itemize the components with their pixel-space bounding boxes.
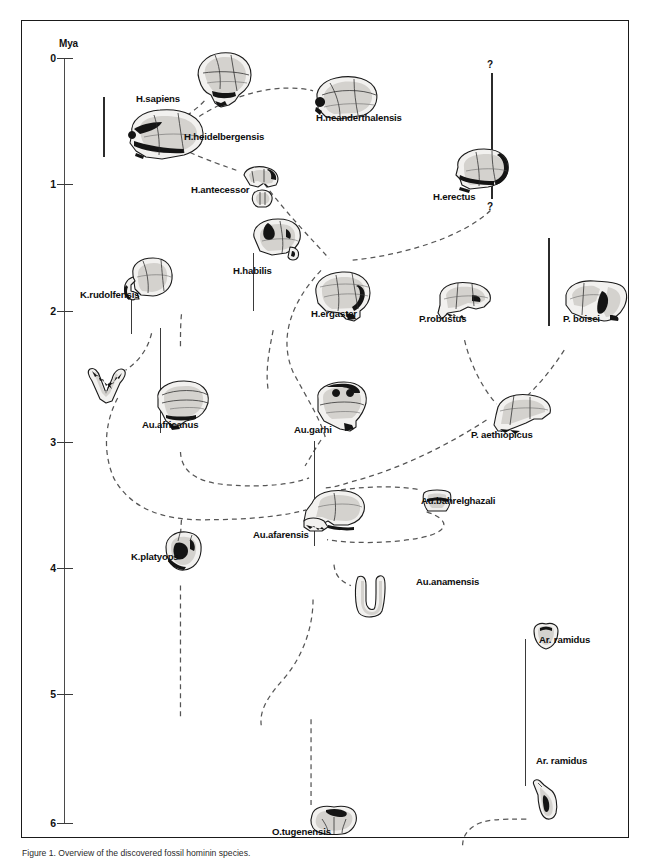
fossil-h-habilis — [248, 215, 306, 263]
axis-tick-label-2: 2 — [38, 306, 56, 317]
taxon-label-au-anamensis: Au.anamensis — [416, 577, 479, 587]
taxon-label-h-ergaster: H.ergaster — [311, 309, 357, 319]
uncertainty-marker-bottom: ? — [487, 201, 493, 212]
taxon-label-p-robustus: P.robustus — [419, 314, 466, 324]
axis-tick-5 — [57, 694, 73, 695]
axis-tick-label-5: 5 — [38, 689, 56, 700]
figure-caption: Figure 1. Overview of the discovered fos… — [22, 848, 622, 866]
taxon-label-p-aethiopicus: P. aethiopicus — [471, 430, 533, 440]
taxon-label-p-boisei: P. boisei — [563, 314, 600, 324]
uncertainty-marker-top: ? — [487, 59, 493, 70]
link-habilis-down — [267, 330, 273, 390]
fossil-h-sapiens — [185, 49, 257, 111]
fossil-k-rudolfensis — [119, 255, 175, 309]
axis-line — [64, 58, 65, 823]
link-africanus-up — [180, 314, 181, 346]
link-africanus-afarensis — [180, 452, 309, 486]
link-afarensis-anamensis — [334, 565, 351, 586]
taxon-label-h-sapiens: H.sapiens — [136, 94, 180, 104]
figure-page: Mya 0 1 2 3 4 5 6 — [0, 0, 651, 868]
axis-tick-label-4: 4 — [38, 563, 56, 574]
taxon-label-au-africanus: Au.africanus — [142, 420, 198, 430]
taxon-label-k-rudolfensis: K.rudolfensis — [80, 290, 139, 300]
axis-tick-label-1: 1 — [38, 179, 56, 190]
taxon-label-k-platyops: K.platyops — [131, 552, 179, 562]
range-bar-ramidus — [525, 639, 526, 786]
time-axis: Mya 0 1 2 3 4 5 6 — [64, 58, 66, 823]
axis-tick-3 — [57, 442, 73, 443]
taxon-label-h-antecessor: H.antecessor — [191, 185, 249, 195]
axis-tick-2 — [57, 311, 73, 312]
axis-unit-label: Mya — [59, 38, 78, 49]
taxon-label-h-heidelbergensis: H.heidelbergensis — [184, 132, 264, 142]
axis-tick-4 — [57, 568, 73, 569]
taxon-label-au-garhi: Au.garhi — [294, 425, 332, 435]
link-ramidus-bottom — [463, 819, 527, 847]
axis-tick-6 — [57, 823, 73, 824]
axis-tick-label-6: 6 — [38, 818, 56, 829]
axis-tick-label-3: 3 — [38, 437, 56, 448]
taxon-label-h-habilis: H.habilis — [233, 266, 272, 276]
range-bar-boisei — [548, 238, 550, 326]
taxon-label-ar-ramidus-upper: Ar. ramidus — [539, 635, 590, 645]
fossil-mandible-fragment — [84, 365, 130, 407]
taxon-label-ar-ramidus-lower: Ar. ramidus — [536, 756, 587, 766]
link-anamensis-down — [261, 600, 313, 726]
axis-tick-label-0: 0 — [38, 53, 56, 64]
taxon-label-au-afarensis: Au.afarensis — [253, 530, 309, 540]
fossil-ar-ramidus-lower — [530, 777, 560, 821]
taxon-label-au-bahrelghazali: Au.bahrelghazali — [421, 496, 495, 506]
taxon-label-o-tugenensis: O.tugenensis — [272, 827, 331, 837]
axis-tick-1 — [57, 184, 73, 185]
link-erectus-ergaster — [351, 211, 491, 261]
fossil-h-erectus — [450, 145, 512, 197]
taxon-label-h-neanderthalensis: H.neanderthalensis — [316, 113, 402, 123]
figure-frame: Mya 0 1 2 3 4 5 6 — [21, 20, 629, 838]
fossil-au-anamensis — [352, 573, 388, 621]
range-bar-heidelbergensis — [103, 97, 105, 157]
taxon-label-h-erectus: H.erectus — [433, 192, 475, 202]
axis-tick-0 — [57, 58, 73, 59]
